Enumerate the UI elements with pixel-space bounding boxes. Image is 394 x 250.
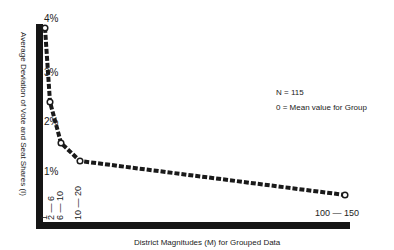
x-tick-100-150: 100 — 150 <box>315 208 359 218</box>
data-point-10-20 <box>77 158 83 164</box>
y-tick-1: 1% <box>44 166 59 177</box>
x-axis-line <box>36 222 350 229</box>
chart: 4% 3% 2% 1% Average Deviation of Vote an… <box>0 0 394 250</box>
x-tick-6-10: 6 — 10 <box>55 191 65 220</box>
data-point-6-10 <box>58 140 64 146</box>
x-axis-title: District Magnitudes (M) for Grouped Data <box>134 238 281 247</box>
y-tick-4: 4% <box>44 13 59 24</box>
legend-mean: 0 = Mean value for Group <box>276 103 367 112</box>
legend-n: N = 115 <box>276 88 304 97</box>
x-tick-10-20: 10 — 20 <box>73 186 83 220</box>
data-point-100-150 <box>342 192 348 198</box>
y-axis-line <box>36 24 43 229</box>
y-axis-title: Average Deviation of Vote and Seat Share… <box>19 32 28 196</box>
data-point-2-6 <box>47 99 53 105</box>
data-point-1 <box>42 25 48 31</box>
